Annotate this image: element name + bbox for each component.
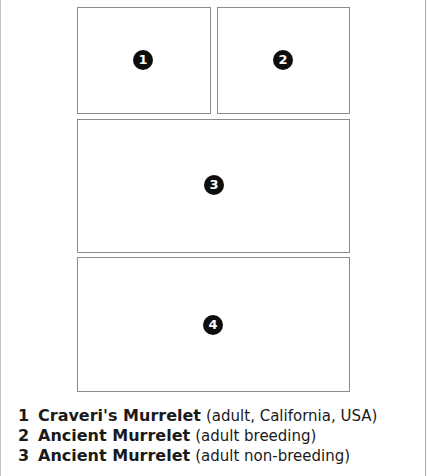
species-name: Craveri's Murrelet xyxy=(38,406,201,426)
page-edge-right xyxy=(425,0,426,476)
plate-number-marker-4: 4 xyxy=(203,315,223,335)
species-name: Ancient Murrelet xyxy=(38,426,190,446)
caption-line-2: 2 Ancient Murrelet (adult breeding) xyxy=(18,426,428,446)
species-name: Ancient Murrelet xyxy=(38,446,190,466)
caption-number: 3 xyxy=(18,446,38,466)
page-edge-left xyxy=(0,0,1,476)
plate-caption: 1 Craveri's Murrelet (adult, California,… xyxy=(18,406,428,466)
caption-number: 2 xyxy=(18,426,38,446)
species-description: (adult non-breeding) xyxy=(195,446,350,466)
species-description: (adult, California, USA) xyxy=(206,406,377,426)
plate-number-marker-3: 3 xyxy=(204,175,224,195)
caption-line-3: 3 Ancient Murrelet (adult non-breeding) xyxy=(18,446,428,466)
species-description: (adult breeding) xyxy=(195,426,316,446)
plate-number-marker-1: 1 xyxy=(133,50,153,70)
plate-number-marker-2: 2 xyxy=(273,50,293,70)
caption-line-1: 1 Craveri's Murrelet (adult, California,… xyxy=(18,406,428,426)
caption-number: 1 xyxy=(18,406,38,426)
